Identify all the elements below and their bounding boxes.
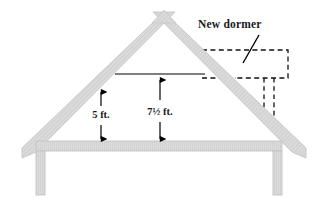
attic-floor-beam bbox=[36, 141, 282, 151]
right-rafter bbox=[153, 12, 306, 158]
dimension-7half-ft: 7½ ft. bbox=[147, 80, 173, 139]
dimension-5ft-label: 5 ft. bbox=[92, 109, 110, 120]
right-wall-post bbox=[273, 151, 282, 195]
left-wall-post bbox=[36, 151, 45, 195]
diagram-canvas: 5 ft. 7½ ft. New dormer bbox=[0, 0, 319, 214]
dimension-5ft: 5 ft. bbox=[92, 92, 110, 139]
roof-dormer-diagram: 5 ft. 7½ ft. New dormer bbox=[0, 0, 319, 214]
left-rafter bbox=[22, 12, 175, 158]
gable-roof bbox=[22, 10, 306, 158]
new-dormer-label: New dormer bbox=[198, 18, 262, 30]
dimension-7half-label: 7½ ft. bbox=[147, 106, 173, 117]
new-dormer-leader-line bbox=[243, 35, 259, 63]
